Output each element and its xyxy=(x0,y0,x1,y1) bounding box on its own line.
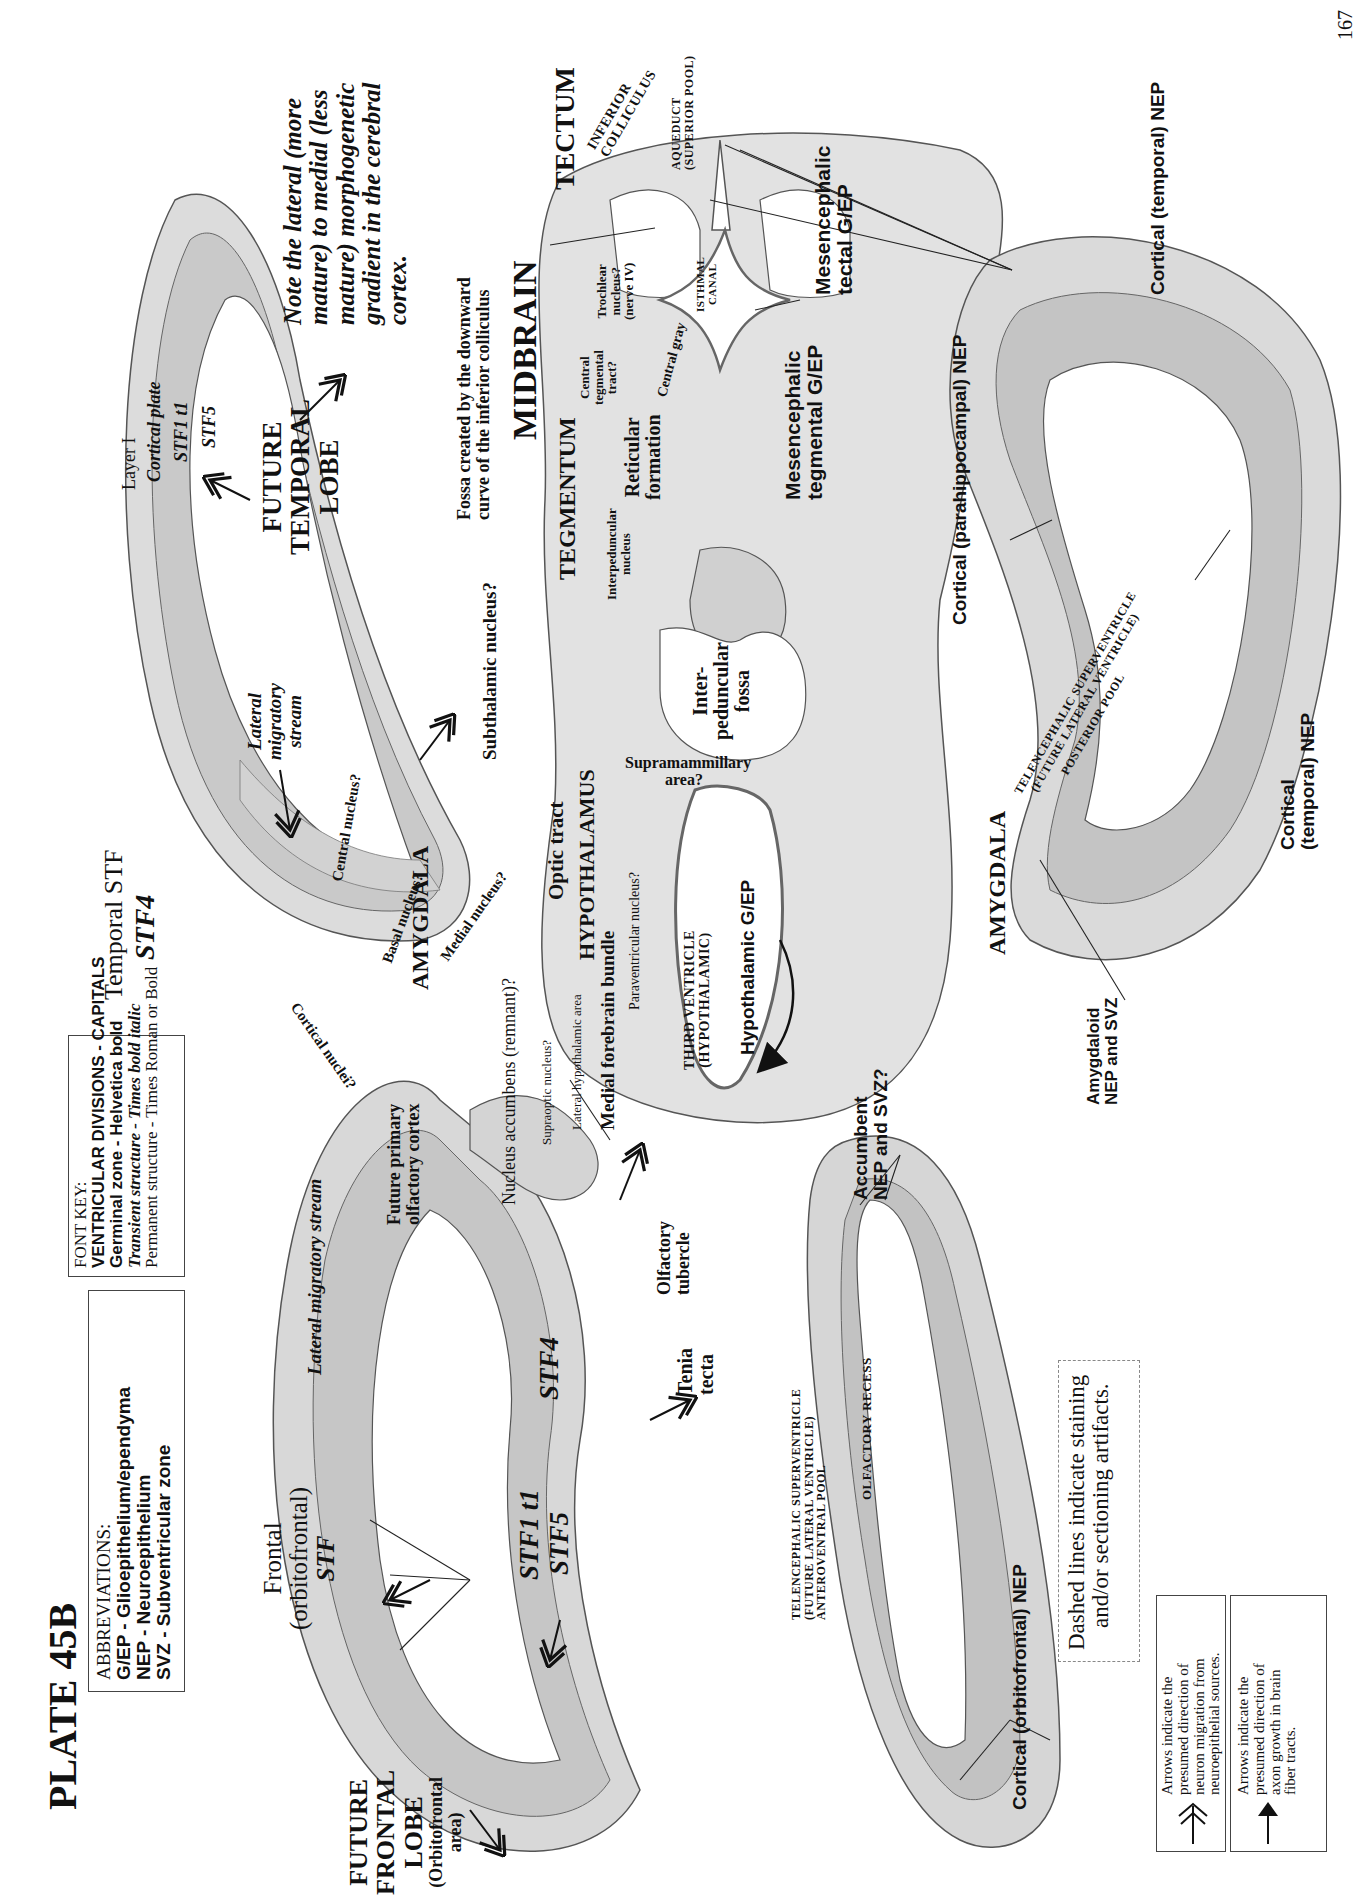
abbreviations-heading: ABBREVIATIONS: xyxy=(94,1387,114,1680)
supraoptic-nucleus-label: Supraoptic nucleus? xyxy=(540,1040,554,1145)
future-primary-olfactory-cortex-label: Future primary olfactory cortex xyxy=(385,1104,423,1225)
legend-migration-text: Arrows indicate the presumed direction o… xyxy=(1160,1653,1223,1795)
aqueduct-label: AQUEDUCT (SUPERIOR POOL) xyxy=(670,55,695,170)
olfactory-recess-label: OLFACTORY RECESS xyxy=(860,1357,874,1500)
fossa-note-label: Fossa created by the downward curve of t… xyxy=(455,277,493,520)
telencephalic-superventricle-anteroventral-label: TELENCEPHALIC SUPERVENTRICLE (FUTURE LAT… xyxy=(790,1389,828,1620)
tenia-tecta-label: Tenia tecta xyxy=(675,1348,717,1395)
temporal-stf-label: Temporal STF xyxy=(100,849,127,1000)
stf4-frontal-label: STF4 xyxy=(535,1337,563,1400)
future-temporal-lobe-label: FUTURE TEMPORAL LOBE xyxy=(258,399,343,555)
reticular-formation-label: Reticular formation xyxy=(622,414,664,500)
frontal-stf-label: Frontal (orbitofrontal) STF xyxy=(260,1487,339,1630)
supramammillary-label: Supramammillary area? xyxy=(625,755,751,789)
mesencephalic-tectal-gep-label: Mesencephalic tectal G/EP xyxy=(812,146,856,295)
solid-triangle-arrow-icon xyxy=(1240,1800,1295,1845)
layer-i-label: Layer I xyxy=(120,438,139,490)
cortical-parahippocampal-nep-label: Cortical (parahippocampal) NEP xyxy=(950,335,970,625)
stf4-temporal-label: STF4 xyxy=(130,895,159,960)
subthalamic-nucleus-label: Subthalamic nucleus? xyxy=(480,582,500,760)
double-chevron-arrow-icon xyxy=(1165,1800,1220,1845)
stf5-temporal-label: STF5 xyxy=(200,406,219,448)
isthmal-canal-label: ISTHMAL CANAL xyxy=(695,257,718,312)
optic-tract-label: Optic tract xyxy=(545,801,567,900)
amygdala-right-label: AMYGDALA xyxy=(985,811,1010,955)
interpeduncular-nucleus-label: Interpeduncular nucleus xyxy=(605,508,632,600)
interpeduncular-fossa-label: Inter- peduncular fossa xyxy=(690,642,753,740)
lateral-migratory-stream-frontal: Lateral migratory stream xyxy=(305,1179,325,1375)
font-key-ventricular: VENTRICULAR DIVISIONS - CAPITALS xyxy=(90,957,108,1268)
font-key-permanent: Permanent structure - Times Roman or Bol… xyxy=(143,957,161,1268)
abbrev-svz: SVZ - Subventricular zone xyxy=(154,1387,174,1680)
legend-axon-text: Arrows indicate the presumed direction o… xyxy=(1236,1663,1299,1795)
tectum-label: TECTUM xyxy=(550,67,579,190)
medial-forebrain-bundle-label: Medial forebrain bundle xyxy=(598,931,618,1130)
olfactory-tubercle-label: Olfactory tubercle xyxy=(655,1221,693,1295)
paraventricular-nucleus-label: Paraventricular nucleus? xyxy=(628,872,643,1010)
abbrev-nep: NEP - Neuroepithelium xyxy=(134,1387,154,1680)
third-ventricle-label: THIRD VENTRICLE (HYPOTHALAMIC) xyxy=(683,930,712,1070)
lateral-migratory-stream-temporal: Lateral migratory stream xyxy=(245,683,305,760)
hypothalamus-label: HYPOTHALAMUS xyxy=(575,769,598,960)
cortical-plate-label: Cortical plate xyxy=(145,382,164,483)
plate-title: PLATE 45B xyxy=(42,1603,84,1810)
trochlear-nucleus-label: Trochlear nucleus? (nerve IV) xyxy=(595,263,636,320)
lateral-hypothalamic-area-label: Lateral hypothalamic area xyxy=(570,994,584,1130)
font-key-transient: Transient structure - Times bold italic xyxy=(126,957,144,1268)
future-frontal-lobe-label: FUTURE FRONTAL LOBE (Orbitofrontal area) xyxy=(345,1770,465,1895)
gradient-note: Note the lateral (more mature) to medial… xyxy=(280,83,411,325)
font-key-germinal: Germinal zone - Helvetica bold xyxy=(108,957,126,1268)
abbrev-gep: G/EP - Glioepithelium/ependyma xyxy=(114,1387,134,1680)
accumbent-nep-svz-label: Accumbent NEP and SVZ? xyxy=(851,1068,891,1200)
hypothalamic-gep-label: Hypothalamic G/EP xyxy=(738,880,758,1055)
stf1-t1-temporal-label: STF1 t1 xyxy=(172,401,191,462)
cortical-orbitofrontal-nep-label: Cortical (orbitofrontal) NEP xyxy=(1010,1564,1030,1810)
abbreviations-text: ABBREVIATIONS: G/EP - Glioepithelium/epe… xyxy=(94,1387,174,1680)
font-key-heading: FONT KEY: xyxy=(72,957,90,1268)
font-key-text: FONT KEY: VENTRICULAR DIVISIONS - CAPITA… xyxy=(72,957,161,1268)
mesencephalic-tegmental-gep-label: Mesencephalic tegmental G/EP xyxy=(782,345,826,500)
cortical-temporal-nep-top-label: Cortical (temporal) NEP xyxy=(1148,82,1168,295)
midbrain-label: MIDBRAIN xyxy=(507,261,543,440)
stf1-t1-frontal-label: STF1 t1 xyxy=(515,1489,543,1580)
central-tegmental-tract-label: Central tegmental tract? xyxy=(578,350,619,405)
page-number: 167 xyxy=(1335,10,1356,40)
tegmentum-label: TEGMENTUM xyxy=(555,417,580,580)
frontal-lobe-left xyxy=(273,1081,640,1851)
amygdaloid-nep-svz-label: Amygdaloid NEP and SVZ xyxy=(1085,998,1121,1105)
nucleus-accumbens-label: Nucleus accumbens (remnant)? xyxy=(500,978,519,1205)
stf5-frontal-label: STF5 xyxy=(545,1512,573,1575)
dashed-lines-note: Dashed lines indicate staining and/or se… xyxy=(1065,1375,1113,1650)
cortical-temporal-nep-bottom-label: Cortical (temporal) NEP xyxy=(1278,713,1318,850)
